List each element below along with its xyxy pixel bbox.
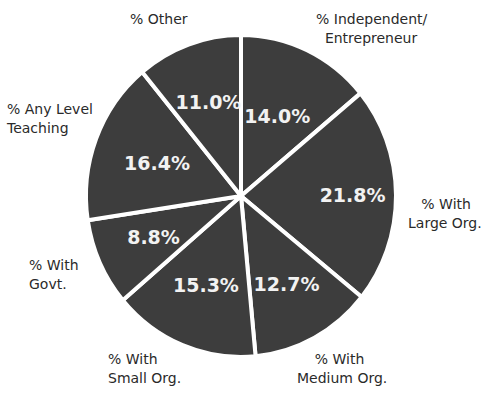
label-medium-org: % With Medium Org. [297,350,387,388]
label-large-org: % With Large Org. [408,195,482,233]
label-govt: % With Govt. [29,256,79,294]
label-other: % Other [130,10,188,29]
slice-value-label: 11.0% [175,91,241,113]
slice-value-label: 8.8% [127,226,180,248]
slice-value-label: 21.8% [320,184,386,206]
slice-value-label: 14.0% [244,105,310,127]
label-independent: % Independent/ Entrepreneur [316,10,427,48]
slice-value-label: 16.4% [124,152,190,174]
label-small-org: % With Small Org. [108,350,181,388]
label-teaching: % Any Level Teaching [7,100,93,138]
slice-value-label: 12.7% [254,273,320,295]
slice-value-label: 15.3% [173,274,239,296]
